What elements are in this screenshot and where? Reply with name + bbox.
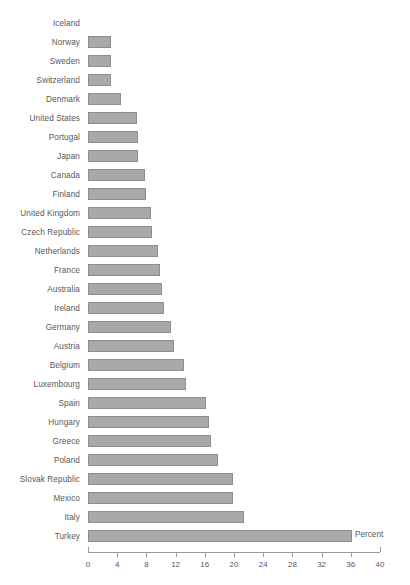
category-label: United States (0, 109, 80, 128)
axis-tick (234, 552, 235, 557)
category-label: Finland (0, 185, 80, 204)
chart-row: Australia (0, 280, 410, 299)
category-label: Canada (0, 166, 80, 185)
category-label: United Kingdom (0, 204, 80, 223)
axis-tick-label: 4 (104, 560, 130, 569)
category-label: Germany (0, 318, 80, 337)
axis-tick (292, 552, 293, 557)
chart-row: Spain (0, 394, 410, 413)
bar (88, 226, 152, 238)
category-label: Hungary (0, 413, 80, 432)
category-label: Netherlands (0, 242, 80, 261)
chart-row: Canada (0, 166, 410, 185)
bar (88, 150, 138, 162)
chart-row: Belgium (0, 356, 410, 375)
axis-tick (176, 552, 177, 557)
category-label: Slovak Republic (0, 470, 80, 489)
chart-row: Mexico (0, 489, 410, 508)
axis-tick-label: 32 (309, 560, 335, 569)
bar-chart: IcelandNorwaySwedenSwitzerlandDenmarkUni… (0, 0, 410, 585)
category-label: France (0, 261, 80, 280)
axis-tick-label: 36 (338, 560, 364, 569)
category-label: Mexico (0, 489, 80, 508)
chart-row: Sweden (0, 52, 410, 71)
bar (88, 340, 174, 352)
axis-tick-label: 16 (192, 560, 218, 569)
axis-tick-label: 24 (250, 560, 276, 569)
category-label: Iceland (0, 14, 80, 33)
category-label: Austria (0, 337, 80, 356)
bar (88, 378, 186, 390)
chart-row: Netherlands (0, 242, 410, 261)
bar (88, 264, 160, 276)
category-label: Australia (0, 280, 80, 299)
bar (88, 359, 184, 371)
bar (88, 207, 151, 219)
category-label: Czech Republic (0, 223, 80, 242)
bar (88, 530, 352, 542)
category-label: Belgium (0, 356, 80, 375)
bar (88, 435, 211, 447)
bar (88, 321, 171, 333)
category-label: Greece (0, 432, 80, 451)
category-label: Poland (0, 451, 80, 470)
axis-tick (351, 552, 352, 557)
chart-row: Switzerland (0, 71, 410, 90)
bar (88, 131, 138, 143)
category-label: Italy (0, 508, 80, 527)
bar (88, 511, 244, 523)
category-label: Sweden (0, 52, 80, 71)
chart-row: Ireland (0, 299, 410, 318)
axis-tick (322, 552, 323, 557)
bar (88, 93, 121, 105)
chart-row: United States (0, 109, 410, 128)
category-label: Portugal (0, 128, 80, 147)
axis-tick (88, 547, 89, 552)
chart-row: Italy (0, 508, 410, 527)
bar (88, 283, 162, 295)
axis-tick (205, 552, 206, 557)
bar (88, 245, 158, 257)
axis-tick-label: 0 (75, 560, 101, 569)
category-label: Turkey (0, 527, 80, 546)
plot-area: IcelandNorwaySwedenSwitzerlandDenmarkUni… (0, 0, 410, 585)
chart-row: Japan (0, 147, 410, 166)
chart-row: Greece (0, 432, 410, 451)
axis-tick (380, 547, 381, 552)
bar (88, 302, 164, 314)
category-label: Denmark (0, 90, 80, 109)
chart-row: Iceland (0, 14, 410, 33)
chart-row: Turkey (0, 527, 410, 546)
bar (88, 454, 218, 466)
bar (88, 55, 111, 67)
bar (88, 397, 206, 409)
category-label: Ireland (0, 299, 80, 318)
category-label: Switzerland (0, 71, 80, 90)
bar (88, 112, 137, 124)
bar (88, 492, 233, 504)
chart-row: Germany (0, 318, 410, 337)
category-label: Spain (0, 394, 80, 413)
chart-row: Slovak Republic (0, 470, 410, 489)
axis-tick-label: 20 (221, 560, 247, 569)
bar (88, 169, 145, 181)
bar (88, 188, 146, 200)
axis-tick (146, 552, 147, 557)
chart-row: Norway (0, 33, 410, 52)
chart-row: Poland (0, 451, 410, 470)
axis-tick-label: 12 (163, 560, 189, 569)
chart-row: United Kingdom (0, 204, 410, 223)
category-label: Norway (0, 33, 80, 52)
bar (88, 36, 111, 48)
bar (88, 74, 111, 86)
axis-tick-label: 28 (279, 560, 305, 569)
chart-row: Czech Republic (0, 223, 410, 242)
bar (88, 473, 233, 485)
category-label: Luxembourg (0, 375, 80, 394)
chart-row: Luxembourg (0, 375, 410, 394)
axis-tick (117, 552, 118, 557)
category-label: Japan (0, 147, 80, 166)
chart-row: Finland (0, 185, 410, 204)
axis-tick-label: 8 (133, 560, 159, 569)
chart-row: Austria (0, 337, 410, 356)
